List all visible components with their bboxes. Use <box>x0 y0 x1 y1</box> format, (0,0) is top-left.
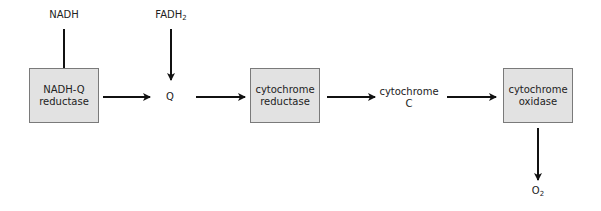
nadh-q-reductase-box: NADH-Q reductase <box>29 68 99 123</box>
o2-subscript: 2 <box>540 190 544 198</box>
box-line2: reductase <box>260 96 310 108</box>
o2-base: O <box>532 185 540 196</box>
box-line1: NADH-Q <box>43 84 84 96</box>
cytochrome-oxidase-box: cytochrome oxidase <box>503 68 573 123</box>
box-line1: cytochrome <box>508 84 567 96</box>
box-line2: oxidase <box>519 96 557 108</box>
cytochrome-reductase-box: cytochrome reductase <box>250 68 320 123</box>
nadh-label: NADH <box>44 9 84 21</box>
q-label: Q <box>160 91 180 103</box>
fadh2-label: FADH2 <box>149 9 193 24</box>
cytochrome-c-label: cytochrome C <box>377 86 441 110</box>
box-line1: cytochrome <box>255 84 314 96</box>
cyt-c-line1: cytochrome <box>377 86 441 98</box>
fadh2-subscript: 2 <box>182 14 186 22</box>
box-line2: reductase <box>39 96 89 108</box>
o2-label: O2 <box>526 185 550 200</box>
cyt-c-line2: C <box>377 98 441 110</box>
fadh2-base: FADH <box>155 9 182 20</box>
